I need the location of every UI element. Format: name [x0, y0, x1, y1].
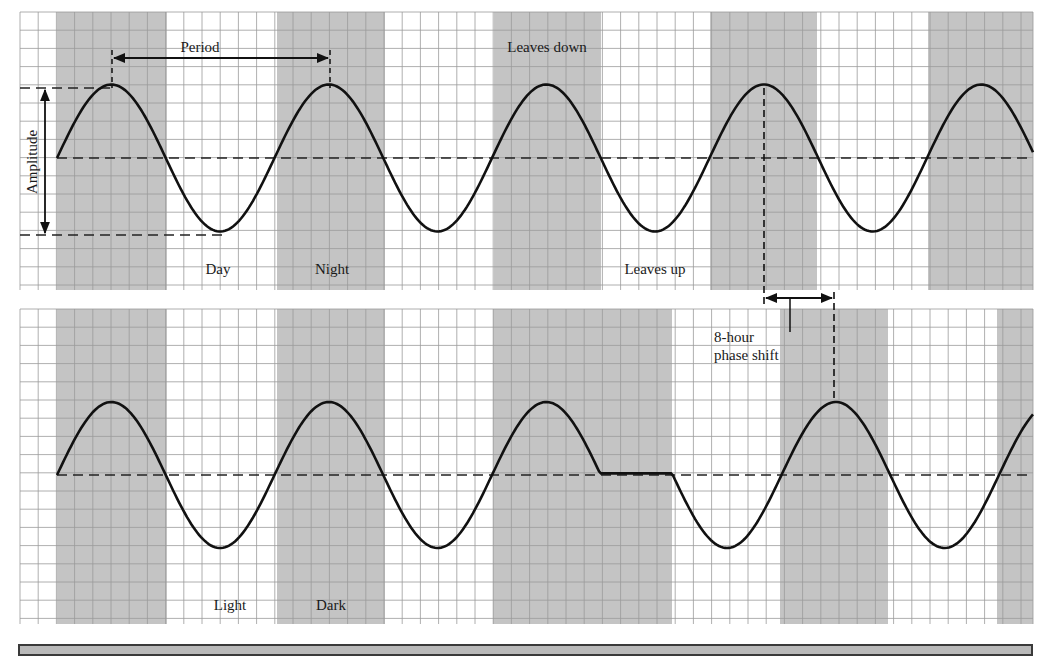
night-label: Night — [315, 261, 350, 277]
leaves-down-label: Leaves down — [507, 39, 587, 55]
light-label: Light — [214, 597, 247, 613]
phase-shift-label-line2: phase shift — [714, 347, 779, 363]
period-label: Period — [180, 39, 220, 55]
day-label: Day — [206, 261, 231, 277]
top-panel: Period Amplitude Leaves down Leaves up D… — [20, 12, 1033, 290]
caption-box — [18, 644, 1033, 656]
dark-label: Dark — [316, 597, 346, 613]
phase-shift-label-line1: 8-hour — [714, 329, 754, 345]
leaves-up-label: Leaves up — [624, 261, 685, 277]
amplitude-annotation: Amplitude — [24, 90, 45, 233]
amplitude-label: Amplitude — [24, 130, 40, 195]
bottom-panel: Light Dark 8-hour phase shift — [20, 309, 1033, 624]
